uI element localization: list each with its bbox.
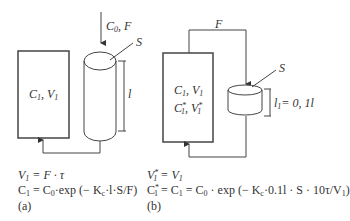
return-line-a [43, 140, 100, 153]
equation-a-1: V1 = F · τ [18, 169, 64, 183]
return-line-b [189, 116, 246, 157]
surface-label-b: S [279, 62, 285, 74]
column-a [84, 52, 116, 141]
tank-label-a: C1, V1 [29, 88, 58, 102]
flow-line-b [189, 30, 246, 84]
length-label-b: l1= 0, 1l [274, 97, 314, 111]
surface-label-a: S [136, 36, 142, 48]
inlet-label-a: C0, F [106, 20, 131, 34]
tank-label-b-1: C1, V1 [174, 84, 203, 98]
equation-b-1: V*1 = V1 [147, 169, 183, 183]
tank-label-b-2: C*1, V*1 [174, 102, 201, 116]
column-b [228, 85, 262, 115]
length-label-a: l [128, 88, 131, 100]
equation-b-2: C*1 = C1 = C0 · exp (− Kc·0.1l · S · 10τ… [147, 184, 350, 198]
panel-label-a: (a) [18, 200, 31, 212]
surface-pointer-a [110, 43, 133, 60]
panel-label-b: (b) [147, 200, 161, 212]
length-bracket-b [264, 89, 271, 116]
length-bracket-a [118, 61, 126, 131]
flow-label-b: F [215, 18, 222, 30]
equation-a-2: C1 = C0·exp (− Kc·l·S/F) [18, 184, 137, 198]
surface-pointer-b [252, 70, 276, 87]
